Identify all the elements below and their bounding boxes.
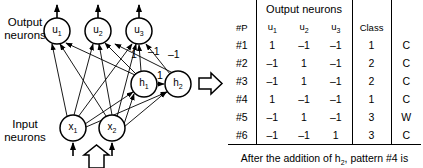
flow-arrow-up-icon (84, 145, 109, 168)
cell-class: 2 (352, 72, 391, 90)
output-axon-arrows (57, 5, 139, 18)
table-row: #4 1 –1 –1 1 C (228, 90, 421, 108)
cell-u3: 1 (320, 126, 352, 145)
table-row: #3 –1 1 –1 2 C (228, 72, 421, 90)
group-header-spacer (228, 0, 256, 18)
col-header-u3: u3 (320, 18, 352, 36)
cell-u2: –1 (288, 90, 320, 108)
cell-u3: –1 (320, 54, 352, 72)
table-row: #5 –1 1 –1 3 W (228, 108, 421, 126)
cell-class: 2 (352, 54, 391, 72)
cell-result: W (391, 108, 421, 126)
weight-label-3: –1 (168, 48, 180, 60)
neuron-x1 (60, 115, 86, 141)
caption-post: , pattern #4 is (345, 152, 409, 164)
figure-root: u1 u2 u3 h1 h2 x1 x2 1 –1 –1 1 Output ne… (0, 0, 423, 168)
input-to-hidden-edges (85, 92, 167, 127)
cell-u1: –1 (256, 54, 288, 72)
cell-u3: –1 (320, 72, 352, 90)
table-group-header-row: Output neurons (228, 0, 421, 18)
cell-u1: –1 (256, 126, 288, 145)
cell-u3: –1 (320, 90, 352, 108)
cell-pattern: #1 (228, 36, 256, 54)
group-header-result-spacer (391, 0, 421, 18)
network-diagram: u1 u2 u3 h1 h2 x1 x2 1 –1 –1 1 Output ne… (0, 0, 226, 168)
table-row: #1 1 –1 –1 1 C (228, 36, 421, 54)
input-neurons-label: Input neurons (2, 118, 48, 143)
col-header-result (391, 18, 421, 36)
cell-class: 1 (352, 36, 391, 54)
neuron-h2 (165, 71, 191, 97)
cell-class: 3 (352, 108, 391, 126)
cell-pattern: #6 (228, 126, 256, 145)
col-header-u1: u1 (256, 18, 288, 36)
caption-pre: After the addition of h (241, 152, 341, 164)
cell-u2: 1 (288, 108, 320, 126)
cell-result: C (391, 72, 421, 90)
col-header-pattern: #P (228, 18, 256, 36)
results-table-panel: Output neurons #P u1 u2 u3 Class #1 1 –1 (226, 0, 423, 168)
cell-u1: 1 (256, 90, 288, 108)
neuron-h1 (131, 71, 157, 97)
cell-class: 1 (352, 90, 391, 108)
table-column-header-row: #P u1 u2 u3 Class (228, 18, 421, 36)
input-to-output-edges (52, 44, 136, 117)
cell-pattern: #3 (228, 72, 256, 90)
cell-pattern: #2 (228, 54, 256, 72)
cell-result: C (391, 54, 421, 72)
cell-u3: –1 (320, 108, 352, 126)
col-header-class: Class (352, 18, 391, 36)
cell-result: C (391, 36, 421, 54)
table-row: #2 –1 1 –1 2 C (228, 54, 421, 72)
neuron-x2 (99, 115, 125, 141)
cell-class: 3 (352, 126, 391, 145)
cell-u2: 1 (288, 72, 320, 90)
input-neurons-label-line1: Input (2, 118, 48, 131)
cell-u1: –1 (256, 108, 288, 126)
cell-pattern: #4 (228, 90, 256, 108)
cell-u2: 1 (288, 54, 320, 72)
cell-u1: 1 (256, 36, 288, 54)
output-neurons-label-line1: Output (2, 16, 48, 29)
flow-arrow-right-icon (199, 73, 222, 94)
cell-result: C (391, 90, 421, 108)
weight-label-2: –1 (148, 45, 160, 57)
output-neurons-label-line2: neurons (2, 29, 48, 42)
col-header-u2: u2 (288, 18, 320, 36)
cell-result: C (391, 126, 421, 145)
results-table: Output neurons #P u1 u2 u3 Class #1 1 –1 (228, 0, 421, 145)
cell-u1: –1 (256, 72, 288, 90)
weight-label-1: 1 (131, 48, 137, 60)
weight-label-4: 1 (157, 69, 163, 81)
group-header-output-neurons: Output neurons (256, 0, 352, 18)
cell-u2: –1 (288, 126, 320, 145)
neuron-circles (44, 18, 191, 141)
input-neurons-label-line2: neurons (2, 131, 48, 144)
cell-u2: –1 (288, 36, 320, 54)
output-neurons-label: Output neurons (2, 16, 48, 41)
group-header-class-spacer (352, 0, 391, 18)
neuron-u3 (126, 18, 152, 44)
neuron-u2 (85, 18, 111, 44)
cell-pattern: #5 (228, 108, 256, 126)
figure-caption: After the addition of h2, pattern #4 is (228, 152, 421, 166)
cell-u3: –1 (320, 36, 352, 54)
table-row: #6 –1 –1 1 3 C (228, 126, 421, 145)
